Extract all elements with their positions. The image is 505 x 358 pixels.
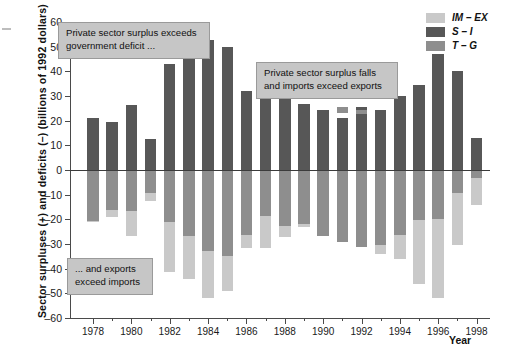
chart-legend: IM – EXS – IT – G <box>426 12 488 54</box>
bar-segment-im-minus-ex <box>222 256 234 292</box>
y-axis-tick-label: 20 <box>50 115 62 127</box>
bar-segment-im-minus-ex <box>202 251 214 298</box>
legend-swatch-icon <box>426 41 445 51</box>
bar-segment-t-minus-g <box>337 170 349 242</box>
x-axis-tick-major <box>323 318 324 324</box>
x-axis-tick-minor <box>304 318 305 321</box>
y-axis-tick-label: 0 <box>56 164 62 176</box>
bar-segment-im-minus-ex <box>241 235 253 248</box>
bar-segment-s-minus-i <box>413 85 425 170</box>
x-axis-tick-label: 1994 <box>389 326 411 337</box>
bar-segment-t-minus-g <box>164 170 176 222</box>
x-axis-tick-major <box>131 318 132 324</box>
x-axis-tick-label: 1984 <box>197 326 219 337</box>
bar-segment-s-minus-i <box>375 110 387 170</box>
y-axis-tick <box>65 96 70 97</box>
bar-segment-s-minus-i <box>241 91 253 170</box>
bar-segment-im-minus-ex <box>279 226 291 237</box>
bar-segment-t-minus-g <box>260 170 272 216</box>
bar-segment-im-minus-ex <box>260 216 272 248</box>
bar-segment-s-minus-i <box>432 54 444 170</box>
y-axis-tick <box>65 145 70 146</box>
bar-segment-t-minus-g <box>452 170 464 193</box>
x-axis-tick-label: 1982 <box>159 326 181 337</box>
bar-segment-im-minus-ex <box>298 224 310 227</box>
bar-segment-s-minus-i <box>202 40 214 170</box>
x-axis-tick-minor <box>457 318 458 321</box>
annotation-private-surplus-exceeds-deficit: Private sector surplus exceeds governmen… <box>58 22 210 59</box>
annotation-exports-exceed-imports: ... and exports exceed imports <box>67 258 153 295</box>
bar-segment-s-minus-i <box>106 122 118 170</box>
y-axis-tick <box>65 71 70 72</box>
x-axis-tick-label: 1988 <box>274 326 296 337</box>
bar-segment-t-minus-g <box>432 170 444 219</box>
bar-segment-s-minus-i <box>452 71 464 170</box>
x-axis-tick-major <box>170 318 171 324</box>
annotation-private-surplus-falls: Private sector surplus falls and imports… <box>256 62 398 99</box>
legend-item[interactable]: T – G <box>426 40 488 51</box>
x-axis-tick-label: 1992 <box>350 326 372 337</box>
bar-segment-im-minus-ex <box>87 221 99 222</box>
bar-segment-s-minus-i <box>145 139 157 170</box>
x-axis-tick-label: 1980 <box>120 326 142 337</box>
x-axis-tick-minor <box>151 318 152 321</box>
x-axis-tick-minor <box>342 318 343 321</box>
x-axis-tick-minor <box>189 318 190 321</box>
bar-segment-s-minus-i <box>126 105 138 170</box>
y-axis-tick-label: –10 <box>44 189 62 201</box>
bar-segment-overlay-t-minus-g <box>356 110 368 114</box>
bar-segment-im-minus-ex <box>432 219 444 298</box>
x-axis-tick-major <box>400 318 401 324</box>
bar-segment-s-minus-i <box>317 110 329 170</box>
legend-item[interactable]: S – I <box>426 26 488 37</box>
bar-segment-s-minus-i <box>298 104 310 170</box>
decorative-corner-mark <box>2 28 11 30</box>
bar-segment-im-minus-ex <box>164 222 176 272</box>
bar-segment-t-minus-g <box>356 170 368 247</box>
bar-segment-t-minus-g <box>471 170 483 178</box>
y-axis-tick-label: 10 <box>50 139 62 151</box>
bar-segment-t-minus-g <box>394 170 406 235</box>
bar-segment-t-minus-g <box>126 170 138 211</box>
bar-segment-s-minus-i <box>164 64 176 170</box>
bar-segment-im-minus-ex <box>471 178 483 205</box>
bar-segment-t-minus-g <box>241 170 253 235</box>
bar-segment-s-minus-i <box>337 118 349 170</box>
bar-segment-s-minus-i <box>222 47 234 170</box>
x-axis-tick-minor <box>112 318 113 321</box>
x-axis-tick-minor <box>419 318 420 321</box>
x-axis-tick-major <box>246 318 247 324</box>
bar-segment-im-minus-ex <box>394 235 406 259</box>
bar-segment-im-minus-ex <box>106 210 118 217</box>
y-axis-tick-label: 40 <box>50 65 62 77</box>
legend-swatch-icon <box>426 27 445 37</box>
x-axis-line <box>70 318 490 319</box>
chart-root: Sector surpluses (+) and deficits (–) (b… <box>0 0 505 358</box>
bar-segment-s-minus-i <box>394 96 406 170</box>
zero-baseline <box>70 170 490 171</box>
bar-segment-t-minus-g <box>202 170 214 251</box>
bar-segment-t-minus-g <box>145 170 157 193</box>
x-axis-tick-label: 1990 <box>312 326 334 337</box>
x-axis-tick-major <box>362 318 363 324</box>
bar-segment-overlay-t-minus-g <box>337 107 349 113</box>
x-axis-tick-minor <box>381 318 382 321</box>
x-axis-tick-minor <box>266 318 267 321</box>
bar-segment-t-minus-g <box>106 170 118 210</box>
legend-swatch-icon <box>426 13 445 23</box>
bar-segment-t-minus-g <box>183 170 195 236</box>
legend-label: T – G <box>452 40 477 51</box>
x-axis-tick-major <box>285 318 286 324</box>
y-axis-tick-label: –20 <box>44 213 62 225</box>
bar-segment-t-minus-g <box>222 170 234 256</box>
bar-segment-im-minus-ex <box>452 193 464 245</box>
y-axis-tick <box>65 244 70 245</box>
y-axis-tick-label: –30 <box>44 238 62 250</box>
y-axis-tick <box>65 318 70 319</box>
y-axis-tick <box>65 195 70 196</box>
bar-segment-s-minus-i <box>471 138 483 170</box>
x-axis-tick-label: 1978 <box>82 326 104 337</box>
x-axis-tick-major <box>93 318 94 324</box>
legend-item[interactable]: IM – EX <box>426 12 488 23</box>
x-axis-tick-label: 1986 <box>235 326 257 337</box>
